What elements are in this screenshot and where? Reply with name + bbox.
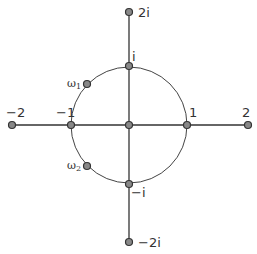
label-neg2_i: −2i <box>138 235 161 250</box>
label-neg2: −2 <box>6 105 25 120</box>
point-two <box>245 122 252 129</box>
label-one: 1 <box>189 105 197 120</box>
point-omega1 <box>84 81 91 88</box>
points-layer <box>9 9 252 246</box>
point-neg2_i <box>126 239 133 246</box>
label-omega1: ω1 <box>67 77 81 91</box>
point-neg1 <box>68 122 75 129</box>
complex-plane-diagram: −2−1122ii−i−2iω1ω2 <box>0 0 257 254</box>
point-two_i <box>126 9 133 16</box>
label-neg1: −1 <box>56 105 75 120</box>
label-omega2: ω2 <box>67 159 81 173</box>
point-one <box>184 122 191 129</box>
diagram-canvas: −2−1122ii−i−2iω1ω2 <box>0 0 257 254</box>
point-neg2 <box>9 122 16 129</box>
label-i: i <box>132 49 136 64</box>
label-two_i: 2i <box>138 5 150 20</box>
point-origin <box>126 122 133 129</box>
label-two: 2 <box>242 105 250 120</box>
label-neg_i: −i <box>131 185 146 200</box>
point-omega2 <box>84 163 91 170</box>
